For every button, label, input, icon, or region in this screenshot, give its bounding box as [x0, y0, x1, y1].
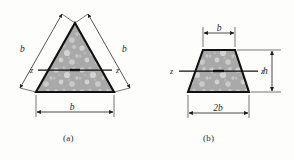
trapezoid-z-label-left: z [169, 67, 174, 76]
triangle-shape [36, 23, 114, 92]
triangle-z-label-right: z [115, 66, 120, 75]
trapezoid-height-label: h [263, 66, 268, 76]
panel-a-triangle: z z b b b [20, 14, 130, 117]
trapezoid-top-label: b [217, 23, 222, 33]
panel-b-caption: (b) [203, 133, 214, 143]
panel-a-caption: (a) [63, 133, 74, 143]
trapezoid-bottom-label: 2b [213, 103, 223, 113]
triangle-left-side-label: b [20, 44, 25, 54]
triangle-base-dimension [36, 95, 114, 117]
triangle-right-side-label: b [122, 44, 127, 54]
panel-b-trapezoid: z z b h 2b [169, 23, 281, 118]
figure-svg: z z b b b [0, 0, 294, 160]
triangle-base-label: b [70, 102, 75, 112]
figure-container: z z b b b [0, 0, 294, 160]
